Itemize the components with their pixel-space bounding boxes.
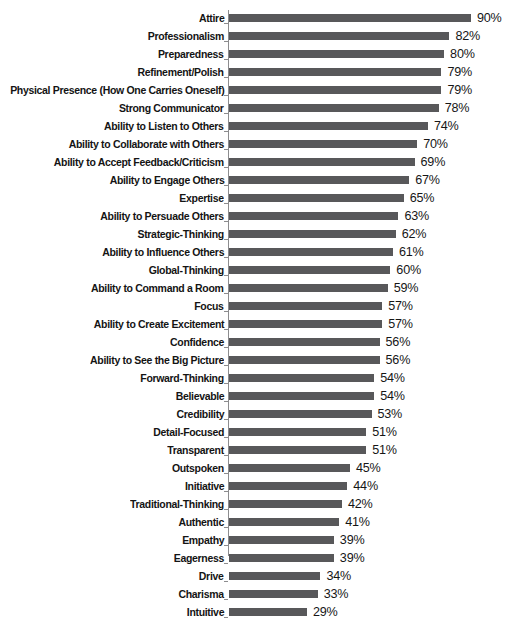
bar-category-label: Ability to Engage Others bbox=[109, 172, 224, 190]
bar bbox=[229, 464, 350, 472]
bar-value-label: 82% bbox=[455, 28, 480, 46]
axis-tick bbox=[224, 545, 228, 546]
bar bbox=[229, 482, 347, 490]
bar-row: Ability to See the Big Picture56% bbox=[0, 352, 528, 370]
axis-tick bbox=[224, 77, 228, 78]
axis-tick bbox=[224, 221, 228, 222]
bar-row: Authentic41% bbox=[0, 514, 528, 532]
bar bbox=[229, 608, 307, 616]
bar-value-label: 70% bbox=[423, 136, 448, 154]
axis-tick bbox=[224, 491, 228, 492]
axis-tick bbox=[224, 239, 228, 240]
bar-category-label: Attire bbox=[199, 10, 224, 28]
bar-category-label: Strong Communicator bbox=[119, 100, 224, 118]
bar bbox=[229, 32, 449, 40]
bar-category-label: Focus bbox=[195, 298, 224, 316]
bar bbox=[229, 68, 441, 76]
bar-value-label: 51% bbox=[372, 424, 397, 442]
bar-row: Ability to Engage Others67% bbox=[0, 172, 528, 190]
bar-row: Ability to Accept Feedback/Criticism69% bbox=[0, 154, 528, 172]
bar-row: Forward-Thinking54% bbox=[0, 370, 528, 388]
bar-value-label: 53% bbox=[378, 406, 403, 424]
bar-value-label: 41% bbox=[345, 514, 370, 532]
bar-category-label: Professionalism bbox=[148, 28, 224, 46]
bar bbox=[229, 14, 471, 22]
bar bbox=[229, 590, 318, 598]
bar bbox=[229, 212, 398, 220]
bar-value-label: 61% bbox=[399, 244, 424, 262]
bar-category-label: Ability to Command a Room bbox=[91, 280, 224, 298]
axis-tick bbox=[224, 581, 228, 582]
bar-value-label: 56% bbox=[386, 334, 411, 352]
bar-row: Ability to Influence Others61% bbox=[0, 244, 528, 262]
bar-value-label: 45% bbox=[356, 460, 381, 478]
bar-row: Charisma33% bbox=[0, 586, 528, 604]
axis-tick bbox=[224, 23, 228, 24]
bar-value-label: 29% bbox=[313, 604, 338, 622]
bar-category-label: Traditional-Thinking bbox=[130, 496, 224, 514]
bar-row: Professionalism82% bbox=[0, 28, 528, 46]
bar-value-label: 78% bbox=[445, 100, 470, 118]
bar-row: Physical Presence (How One Carries Onese… bbox=[0, 82, 528, 100]
bar-category-label: Expertise bbox=[180, 190, 224, 208]
bar-category-label: Ability to Persuade Others bbox=[101, 208, 224, 226]
axis-tick bbox=[224, 383, 228, 384]
bar-row: Global-Thinking60% bbox=[0, 262, 528, 280]
axis-tick bbox=[224, 311, 228, 312]
bar bbox=[229, 338, 380, 346]
bar-row: Detail-Focused51% bbox=[0, 424, 528, 442]
axis-tick bbox=[224, 185, 228, 186]
axis-tick bbox=[224, 203, 228, 204]
bar-category-label: Detail-Focused bbox=[153, 424, 224, 442]
bar-value-label: 54% bbox=[380, 388, 405, 406]
bar-row: Intuitive29% bbox=[0, 604, 528, 622]
axis-tick bbox=[224, 365, 228, 366]
bar-value-label: 90% bbox=[477, 10, 502, 28]
bar-category-label: Forward-Thinking bbox=[140, 370, 224, 388]
bar bbox=[229, 158, 415, 166]
bar-category-label: Confidence bbox=[170, 334, 224, 352]
bar-value-label: 42% bbox=[348, 496, 373, 514]
bar-value-label: 63% bbox=[404, 208, 429, 226]
bar-row: Traditional-Thinking42% bbox=[0, 496, 528, 514]
bar-category-label: Intuitive bbox=[187, 604, 224, 622]
axis-tick bbox=[224, 563, 228, 564]
bar-row: Transparent51% bbox=[0, 442, 528, 460]
axis-tick bbox=[224, 617, 228, 618]
axis-tick bbox=[224, 347, 228, 348]
axis-tick bbox=[224, 527, 228, 528]
bar-category-label: Preparedness bbox=[158, 46, 224, 64]
bar bbox=[229, 392, 374, 400]
axis-tick bbox=[224, 167, 228, 168]
bar-category-label: Ability to Accept Feedback/Criticism bbox=[54, 154, 224, 172]
axis-tick bbox=[224, 95, 228, 96]
bar-category-label: Ability to Collaborate with Others bbox=[69, 136, 224, 154]
bar-row: Believable54% bbox=[0, 388, 528, 406]
axis-tick bbox=[224, 59, 228, 60]
bar-value-label: 65% bbox=[410, 190, 435, 208]
bar-category-label: Ability to Influence Others bbox=[102, 244, 224, 262]
bar bbox=[229, 500, 342, 508]
bar-row: Eagerness39% bbox=[0, 550, 528, 568]
bar-category-label: Drive bbox=[199, 568, 224, 586]
bar-row: Initiative44% bbox=[0, 478, 528, 496]
bar-category-label: Believable bbox=[175, 388, 224, 406]
bar-value-label: 69% bbox=[421, 154, 446, 172]
bar bbox=[229, 284, 388, 292]
bar-category-label: Ability to See the Big Picture bbox=[90, 352, 224, 370]
bar-category-label: Credibility bbox=[176, 406, 224, 424]
bar bbox=[229, 446, 366, 454]
bar-value-label: 79% bbox=[447, 82, 472, 100]
bar-row: Ability to Listen to Others74% bbox=[0, 118, 528, 136]
bar-row: Outspoken45% bbox=[0, 460, 528, 478]
bar-category-label: Ability to Listen to Others bbox=[104, 118, 224, 136]
bar-value-label: 59% bbox=[394, 280, 419, 298]
axis-tick bbox=[224, 293, 228, 294]
bar-row: Preparedness80% bbox=[0, 46, 528, 64]
bar-row: Expertise65% bbox=[0, 190, 528, 208]
bar-value-label: 39% bbox=[340, 532, 365, 550]
bar-value-label: 67% bbox=[415, 172, 440, 190]
bar-row: Ability to Create Excitement57% bbox=[0, 316, 528, 334]
bar-row: Strategic-Thinking62% bbox=[0, 226, 528, 244]
